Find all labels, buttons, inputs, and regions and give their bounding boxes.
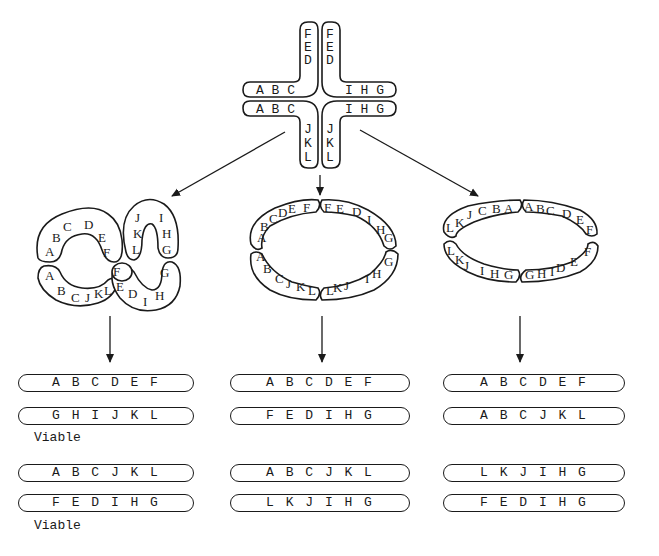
ring-label: E bbox=[288, 201, 296, 216]
label-J: J bbox=[326, 122, 334, 137]
label-L: L bbox=[326, 150, 334, 165]
ring-label: K bbox=[333, 280, 343, 295]
product-chromosome: G H I J K L bbox=[18, 407, 194, 425]
label-L: L bbox=[304, 150, 312, 165]
ring-label: C bbox=[478, 203, 487, 218]
figure-eight-configuration: A B C D E F A B C J K L J I K H L G F E … bbox=[37, 199, 180, 310]
ring-label: I bbox=[480, 263, 484, 278]
label-C: C bbox=[63, 219, 72, 234]
pachytene-cross: F E D F E D A B C I H G A B C I H G J K … bbox=[243, 22, 396, 168]
ring-label: I bbox=[367, 212, 371, 227]
ring-label: L bbox=[447, 243, 455, 258]
ring-label: D bbox=[556, 260, 565, 275]
ring-label: B bbox=[260, 219, 269, 234]
label-IHG: I H G bbox=[345, 83, 384, 98]
ring-label: F bbox=[584, 244, 591, 259]
label-A: A bbox=[45, 244, 55, 259]
ring-label: B bbox=[263, 261, 272, 276]
ring-label: D bbox=[352, 204, 361, 219]
ring-label: L bbox=[308, 283, 316, 298]
product-chromosome: A B C J K L bbox=[18, 464, 194, 482]
label-F: F bbox=[113, 264, 120, 279]
product-chromosome: A B C J K L bbox=[443, 407, 625, 425]
label-D: D bbox=[326, 53, 334, 68]
ring-label: B bbox=[492, 201, 501, 216]
ring-label: A bbox=[504, 201, 514, 216]
label-H: H bbox=[155, 288, 164, 303]
ring-label: F bbox=[324, 200, 331, 215]
label-K: K bbox=[94, 286, 104, 301]
label-G: G bbox=[160, 265, 169, 280]
label-L: L bbox=[132, 242, 140, 257]
ring-label: J bbox=[344, 278, 349, 293]
label-C: C bbox=[71, 290, 80, 305]
ring-label: E bbox=[336, 201, 344, 216]
label-L: L bbox=[104, 283, 112, 298]
label-IHG: I H G bbox=[345, 102, 384, 117]
label-F: F bbox=[103, 245, 110, 260]
ring-label: A bbox=[524, 199, 534, 214]
label-G: G bbox=[162, 242, 171, 257]
ring-configuration-2: L K J C B A A B C D E F L K J I H G G H … bbox=[444, 199, 599, 282]
ring-label: I bbox=[365, 271, 369, 286]
ring-label: C bbox=[269, 211, 278, 226]
label-D: D bbox=[128, 286, 137, 301]
ring-label: G bbox=[504, 267, 513, 282]
ring-label: B bbox=[536, 201, 545, 216]
label-ABC: A B C bbox=[256, 83, 295, 98]
label-ABC: A B C bbox=[256, 102, 295, 117]
product-chromosome: A B C D E F bbox=[443, 374, 625, 392]
product-chromosome: A B C D E F bbox=[18, 374, 194, 392]
label-H: H bbox=[162, 226, 171, 241]
label-J: J bbox=[85, 290, 90, 305]
ring-label: C bbox=[275, 271, 284, 286]
product-chromosome: F E D I H G bbox=[18, 494, 194, 512]
ring-label: J bbox=[464, 258, 469, 273]
ring-label: H bbox=[490, 266, 499, 281]
ring-label: K bbox=[455, 215, 465, 230]
label-J: J bbox=[304, 122, 312, 137]
product-chromosome: A B C J K L bbox=[230, 464, 410, 482]
ring-label: J bbox=[467, 207, 472, 222]
product-chromosome: F E D I H G bbox=[230, 407, 410, 425]
ring-label: K bbox=[296, 279, 306, 294]
product-chromosome: L K J I H G bbox=[230, 494, 410, 512]
ring-label: H bbox=[372, 266, 381, 281]
product-chromosome: L K J I H G bbox=[443, 464, 625, 482]
label-D: D bbox=[84, 217, 93, 232]
ring-label: F bbox=[586, 222, 593, 237]
label-E: E bbox=[116, 279, 124, 294]
label-K: K bbox=[133, 226, 143, 241]
product-chromosome: A B C D E F bbox=[230, 374, 410, 392]
ring-label: E bbox=[570, 254, 578, 269]
label-D: D bbox=[304, 53, 312, 68]
arrow-to-figure-eight bbox=[172, 132, 285, 196]
arrow-to-ring-2 bbox=[360, 130, 478, 196]
ring-label: J bbox=[286, 276, 291, 291]
viable-label: Viable bbox=[34, 518, 81, 533]
ring-label: D bbox=[562, 206, 571, 221]
ring-label: H bbox=[537, 266, 546, 281]
ring-label: E bbox=[576, 212, 584, 227]
ring-label: C bbox=[546, 203, 555, 218]
label-K: K bbox=[304, 136, 312, 151]
label-J: J bbox=[135, 210, 140, 225]
ring-label: L bbox=[446, 220, 454, 235]
ring-label: F bbox=[303, 200, 310, 215]
label-B: B bbox=[57, 283, 66, 298]
ring-configuration-1: A B C D E F F E D I H G A B C J K L L K … bbox=[250, 200, 398, 300]
ring-label: G bbox=[384, 230, 393, 245]
ring-label: G bbox=[384, 254, 393, 269]
label-E: E bbox=[98, 230, 106, 245]
label-K: K bbox=[326, 136, 334, 151]
viable-label: Viable bbox=[34, 430, 81, 445]
ring-label: D bbox=[278, 205, 287, 220]
ring-label: G bbox=[525, 267, 534, 282]
label-I: I bbox=[159, 210, 163, 225]
label-B: B bbox=[52, 230, 61, 245]
label-I: I bbox=[143, 294, 147, 309]
ring-label: I bbox=[550, 264, 554, 279]
product-chromosome: F E D I H G bbox=[443, 494, 625, 512]
label-A: A bbox=[45, 268, 55, 283]
